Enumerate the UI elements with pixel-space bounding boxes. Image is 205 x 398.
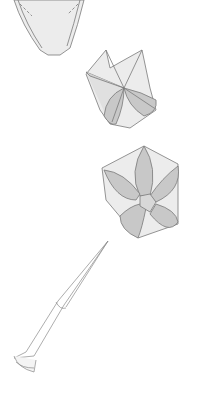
folded-petal-unit: [14, 0, 84, 55]
stem: [14, 241, 108, 372]
opened-flower-3d: [86, 50, 156, 128]
finished-flower-top: [102, 146, 179, 238]
origami-diagram: [0, 0, 205, 398]
